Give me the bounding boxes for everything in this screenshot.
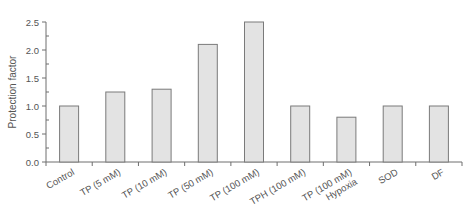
bar [198,44,217,162]
x-category-label: Control [44,166,76,191]
x-category-label: TP (100 mM)Hypoxia [300,166,359,213]
bar [291,106,310,162]
y-axis-title: Protection factor [7,55,18,128]
bar [245,22,264,162]
bar [152,89,171,162]
x-category-label: SOD [376,166,399,186]
bar [429,106,448,162]
x-category-label: TP (10 mM) [120,166,169,201]
bars-group [60,22,449,162]
svg-text:TP (10 mM): TP (10 mM) [120,166,169,201]
y-axis: 0.00.51.01.52.02.5 [26,17,49,168]
x-category-label: TP (50 mM) [166,166,215,201]
svg-text:DF: DF [429,166,446,182]
x-category-label: TP (5 mM) [78,166,122,198]
bar [383,106,402,162]
bar-chart: Protection factor 0.00.51.01.52.02.5 Con… [0,0,464,215]
y-tick-label: 0.0 [26,157,39,168]
y-tick-label: 2.5 [26,17,39,28]
bar [337,117,356,162]
y-tick-label: 1.0 [26,101,39,112]
y-tick-label: 0.5 [26,129,39,140]
bar [106,92,125,162]
svg-text:SOD: SOD [376,166,399,186]
svg-text:TP (50 mM): TP (50 mM) [166,166,215,201]
x-axis [46,162,462,166]
x-category-label: DF [429,166,446,182]
svg-text:TP (5 mM): TP (5 mM) [78,166,122,198]
y-tick-label: 1.5 [26,73,39,84]
x-axis-labels: ControlTP (5 mM)TP (10 mM)TP (50 mM)TP (… [44,166,446,213]
svg-text:Control: Control [44,166,76,191]
y-tick-label: 2.0 [26,45,39,56]
bar [60,106,79,162]
